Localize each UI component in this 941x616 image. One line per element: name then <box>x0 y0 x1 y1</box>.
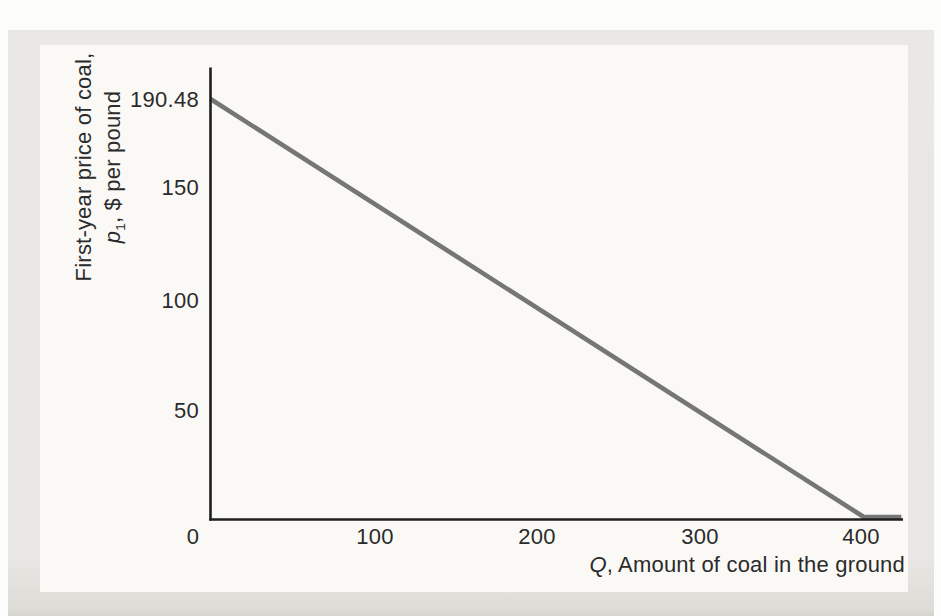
y-axis-variable-subscript: 1 <box>113 223 128 231</box>
y-axis-title: First-year price of coal, p1, $ per poun… <box>69 0 127 397</box>
x-tick-label: 400 <box>816 524 906 550</box>
y-axis-title-line2: p1, $ per pound <box>98 0 127 397</box>
x-axis-title: Q, Amount of coal in the ground <box>589 552 905 578</box>
y-axis-title-line1: First-year price of coal, <box>69 0 98 397</box>
x-tick-label: 0 <box>148 524 238 550</box>
y-tick-label: 50 <box>95 398 199 424</box>
price-line <box>211 99 902 517</box>
y-axis-variable: p <box>100 231 125 243</box>
x-axis-variable: Q <box>589 552 606 577</box>
x-tick-label: 100 <box>330 524 420 550</box>
y-axis-title-line2-text: , $ per pound <box>100 91 125 223</box>
x-axis-title-text: , Amount of coal in the ground <box>607 552 905 577</box>
x-tick-label: 300 <box>655 524 745 550</box>
x-tick-label: 200 <box>492 524 582 550</box>
